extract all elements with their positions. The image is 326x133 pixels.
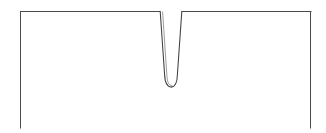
v-notch-specimen-drawing <box>0 0 326 133</box>
figure-canvas <box>0 0 326 133</box>
